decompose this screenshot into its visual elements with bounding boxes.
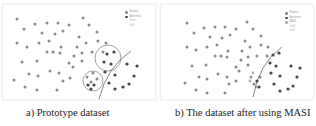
abnormal-points bbox=[255, 51, 301, 92]
legend-a: Normal Abnormal t1=5 k=5 bbox=[125, 10, 141, 28]
decision-boundary bbox=[253, 47, 282, 97]
caption-a: a) Prototype dataset bbox=[26, 107, 109, 118]
legend-item-k: k=5 bbox=[125, 24, 141, 29]
abnormal-swatch-icon bbox=[125, 16, 128, 19]
panel-prototype-dataset: Normal Abnormal t1=5 k=5 bbox=[2, 4, 156, 100]
abnormal-swatch-icon bbox=[285, 17, 288, 20]
neighborhood-circle-large bbox=[95, 45, 121, 71]
normal-points bbox=[13, 17, 108, 92]
legend-b: Normal Abnormal MASI t1=5 k=5 bbox=[285, 11, 301, 34]
masi-swatch-icon bbox=[285, 21, 288, 24]
normal-swatch-icon bbox=[285, 12, 288, 15]
caption-b: b) The dataset after using MASI bbox=[175, 107, 310, 118]
panel-dataset-after-masi: Normal Abnormal MASI t1=5 k=5 bbox=[160, 4, 314, 100]
legend-item-k: k=5 bbox=[285, 29, 301, 34]
normal-swatch-icon bbox=[125, 11, 128, 14]
